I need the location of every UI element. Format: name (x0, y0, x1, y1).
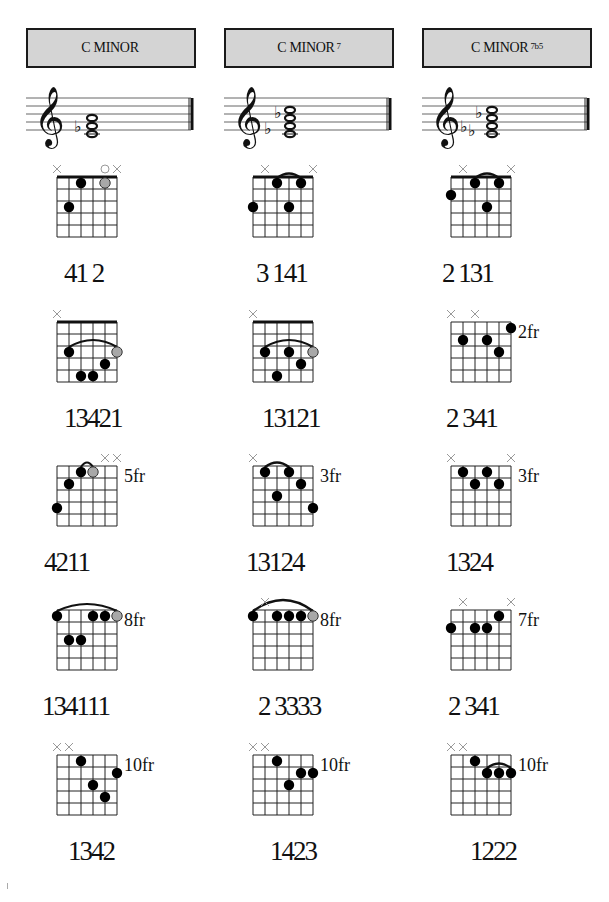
fret-position-label: 10fr (124, 756, 154, 774)
finger-dot-icon (64, 347, 74, 357)
chord-diagram (238, 720, 338, 830)
finger-dot-icon (76, 467, 86, 477)
chord-title-superscript: 7b5 (530, 41, 543, 51)
finger-dot-icon (284, 780, 294, 790)
finger-dot-icon (100, 792, 110, 802)
fretboard-grid-icon (436, 575, 536, 685)
fingering-numbers: 1423 (270, 838, 316, 865)
fingering-numbers: 2 131 (442, 260, 493, 287)
finger-dot-icon (482, 623, 492, 633)
root-note-dot-icon (112, 347, 122, 357)
muted-string-icon (53, 310, 61, 318)
flat-icon: ♭ (460, 118, 468, 135)
fingering-numbers: 2 3333 (258, 693, 320, 720)
muted-string-icon (507, 165, 515, 173)
root-note-dot-icon (88, 467, 98, 477)
fret-position-label: 3fr (518, 467, 539, 485)
finger-dot-icon (272, 178, 282, 188)
finger-dot-icon (88, 611, 98, 621)
chord-diagram (436, 431, 536, 541)
fret-position-label: 7fr (518, 611, 539, 629)
chord-diagram (436, 287, 536, 397)
finger-dot-icon (494, 347, 504, 357)
fretboard-grid-icon (436, 720, 536, 830)
muted-string-icon (261, 165, 269, 173)
finger-dot-icon (494, 178, 504, 188)
finger-dot-icon (76, 756, 86, 766)
finger-dot-icon (76, 178, 86, 188)
finger-dot-icon (272, 611, 282, 621)
root-note-dot-icon (100, 178, 110, 188)
chord-diagram (42, 431, 142, 541)
fret-position-label: 10fr (518, 756, 548, 774)
chord-diagram (42, 720, 142, 830)
finger-dot-icon (296, 611, 306, 621)
muted-string-icon (249, 454, 257, 462)
treble-clef-icon: 𝄞 (430, 86, 461, 149)
finger-dot-icon (446, 190, 456, 200)
fingering-numbers: 2 341 (446, 405, 497, 432)
finger-dot-icon (52, 503, 62, 513)
finger-dot-icon (112, 768, 122, 778)
fret-position-label: 2fr (518, 323, 539, 341)
finger-dot-icon (296, 359, 306, 369)
flat-icon: ♭ (264, 120, 272, 137)
finger-dot-icon (88, 780, 98, 790)
finger-dot-icon (284, 202, 294, 212)
staff-c-minor-7b5: 𝄞 ♭ ♭ ♭ (422, 80, 594, 150)
fret-position-label: 10fr (320, 756, 350, 774)
finger-dot-icon (64, 479, 74, 489)
fretboard-grid-icon (238, 287, 338, 397)
finger-dot-icon (470, 178, 480, 188)
finger-dot-icon (296, 479, 306, 489)
muted-string-icon (507, 454, 515, 462)
fingering-numbers: 1342 (68, 838, 114, 865)
fingering-numbers: 2 341 (448, 693, 499, 720)
finger-dot-icon (272, 491, 282, 501)
staff-c-minor: 𝄞 ♭ (26, 80, 198, 150)
muted-string-icon (447, 310, 455, 318)
fretboard-grid-icon (238, 142, 338, 252)
chord-diagram (238, 431, 338, 541)
finger-dot-icon (248, 611, 258, 621)
chord-diagram (42, 575, 142, 685)
open-string-icon (101, 165, 109, 173)
finger-dot-icon (482, 335, 492, 345)
chord-title-text: C MINOR (277, 40, 334, 56)
muted-string-icon (113, 454, 121, 462)
chord-diagram (238, 287, 338, 397)
chord-diagram (436, 142, 536, 252)
chord-diagram (436, 575, 536, 685)
staff-c-minor-7: 𝄞 ♭ ♭ (224, 80, 396, 150)
fretboard-grid-icon (42, 575, 142, 685)
muted-string-icon (249, 310, 257, 318)
finger-dot-icon (494, 611, 504, 621)
finger-dot-icon (88, 371, 98, 381)
finger-dot-icon (506, 323, 516, 333)
finger-dot-icon (284, 467, 294, 477)
chord-diagram (238, 142, 338, 252)
muted-string-icon (459, 165, 467, 173)
finger-dot-icon (308, 768, 318, 778)
muted-string-icon (447, 454, 455, 462)
fretboard-grid-icon (436, 287, 536, 397)
root-note-dot-icon (308, 611, 318, 621)
finger-dot-icon (470, 756, 480, 766)
muted-string-icon (249, 743, 257, 751)
muted-string-icon (447, 743, 455, 751)
finger-dot-icon (284, 347, 294, 357)
finger-dot-icon (284, 611, 294, 621)
flat-icon: ♭ (468, 122, 476, 139)
fingering-numbers: 13421 (64, 405, 122, 432)
fret-position-label: 8fr (320, 611, 341, 629)
muted-string-icon (459, 743, 467, 751)
root-note-dot-icon (112, 611, 122, 621)
finger-dot-icon (100, 611, 110, 621)
finger-dot-icon (308, 503, 318, 513)
finger-dot-icon (272, 371, 282, 381)
muted-string-icon (113, 165, 121, 173)
treble-clef-icon: 𝄞 (34, 86, 65, 149)
finger-dot-icon (470, 479, 480, 489)
muted-string-icon (507, 598, 515, 606)
chord-title-c-minor: C MINOR (26, 28, 196, 68)
